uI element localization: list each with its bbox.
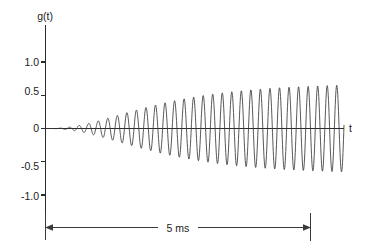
span-label: 5 ms (167, 222, 190, 234)
y-tick-label-1-0: 1.0 (24, 56, 39, 68)
y-tick-label-0: 0 (33, 122, 39, 134)
y-tick-label-neg-1-0: -1.0 (21, 190, 39, 202)
y-tick-label-0-5: 0.5 (24, 85, 39, 97)
span-right-arrowhead (303, 224, 311, 231)
span-left-arrowhead (45, 224, 53, 231)
waveform-figure: 1.0 0.5 0 -0.5 -1.0 g(t) t 5 ms (0, 0, 366, 251)
span-annotation: 5 ms (45, 212, 311, 241)
y-axis-label: g(t) (37, 10, 53, 22)
y-axis-ticks (41, 62, 46, 195)
plot-canvas: 1.0 0.5 0 -0.5 -1.0 g(t) t 5 ms (0, 0, 366, 251)
x-axis-label: t (349, 122, 352, 134)
y-tick-label-neg-0-5: -0.5 (21, 160, 39, 172)
